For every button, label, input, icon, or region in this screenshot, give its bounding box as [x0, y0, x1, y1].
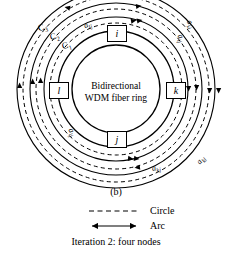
- legend-row-arc: Arc: [0, 218, 232, 233]
- iteration-caption: Iteration 2: four nodes: [0, 236, 232, 247]
- node-l-label: l: [58, 86, 61, 96]
- legend-arc-label: Arc: [150, 220, 165, 231]
- node-k[interactable]: k: [166, 82, 186, 99]
- legend: Circle Arc: [0, 203, 232, 233]
- node-j[interactable]: j: [107, 131, 127, 148]
- ring-network-figure: Bidirectional WDM fiber ring i k j l C3 …: [0, 0, 232, 190]
- center-label-line-1: Bidirectional: [66, 81, 166, 93]
- center-label-line-2: WDM fiber ring: [66, 93, 166, 105]
- legend-row-circle: Circle: [0, 203, 232, 218]
- cut-off-text-line: [0, 250, 232, 258]
- node-j-label: j: [116, 135, 119, 145]
- center-ring-label: Bidirectional WDM fiber ring: [66, 81, 166, 104]
- legend-dashed-line-icon: [88, 205, 140, 217]
- legend-circle-label: Circle: [150, 205, 174, 216]
- node-i[interactable]: i: [107, 25, 127, 42]
- panel-caption: (b): [0, 186, 232, 197]
- node-k-label: k: [174, 86, 178, 96]
- node-l[interactable]: l: [49, 82, 69, 99]
- legend-double-arrow-icon: [88, 220, 140, 232]
- node-i-label: i: [116, 29, 119, 39]
